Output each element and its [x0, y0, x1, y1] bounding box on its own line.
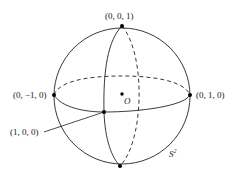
meridian-front-solid	[104, 26, 122, 166]
east-point-label: (0, 1, 0)	[196, 91, 225, 100]
sphere-label-superscript: 2	[174, 148, 177, 154]
west-point	[52, 93, 56, 97]
sphere-label: S2	[169, 148, 177, 159]
front-point-label: (1, 0, 0)	[10, 128, 39, 137]
equator-back-dashed	[54, 76, 190, 95]
origin-label: O	[124, 97, 131, 106]
south-pole-point	[118, 164, 122, 168]
front-point	[102, 110, 106, 114]
west-point-label: (0, −1, 0)	[13, 91, 47, 100]
north-pole-point	[120, 24, 124, 28]
sphere-drawing	[0, 0, 238, 174]
sphere-outline	[54, 28, 190, 164]
equator-front-solid	[54, 95, 190, 112]
sphere-diagram: (0, 0, 1) (0, −1, 0) (0, 1, 0) (1, 0, 0)…	[0, 0, 238, 174]
front-point-leader	[44, 112, 104, 132]
east-point	[188, 93, 192, 97]
north-pole-label: (0, 0, 1)	[105, 12, 134, 21]
